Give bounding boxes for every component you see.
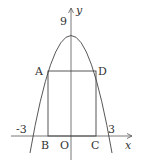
rectangle-abcd [48,71,96,136]
root-right-label: 3 [108,123,115,136]
vertex-label-9: 9 [60,15,67,28]
point-d-label: D [98,65,107,78]
x-axis-label: x [125,139,132,152]
parabola-diagram: 9 y x A D B O C -3 3 [0,0,141,168]
root-left-label: -3 [16,123,27,136]
y-axis-label: y [75,4,83,17]
point-b-label: B [41,139,49,152]
origin-label: O [60,139,69,152]
point-a-label: A [34,65,44,78]
point-c-label: C [91,139,99,152]
